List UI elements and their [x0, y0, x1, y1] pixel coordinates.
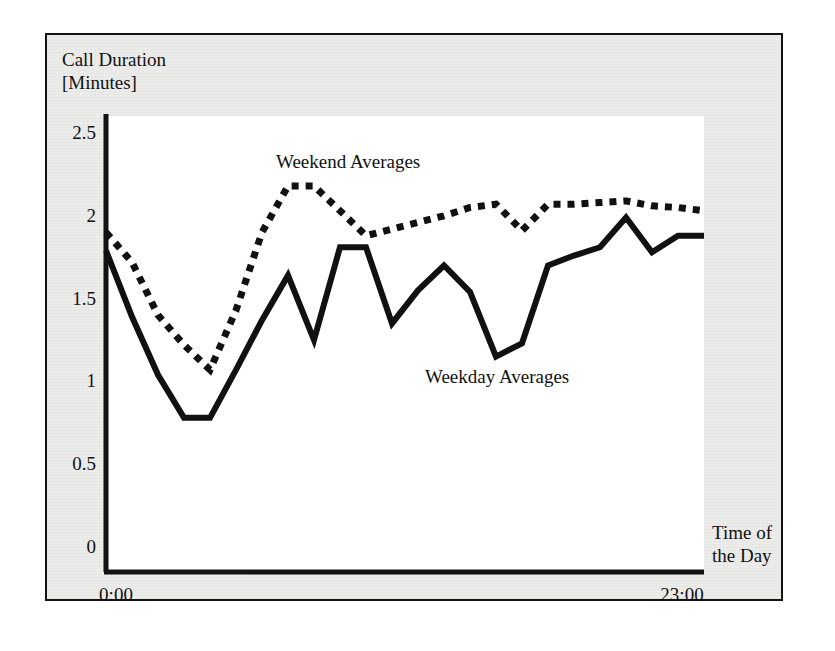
figure-container: Call Duration [Minutes] Time of the Day … [0, 0, 835, 651]
weekend-averages-annotation: Weekend Averages [276, 152, 420, 171]
data-series-group [0, 0, 835, 651]
weekend-averages-line [106, 186, 704, 370]
weekday-averages-line [106, 217, 704, 417]
weekday-averages-annotation: Weekday Averages [425, 367, 569, 386]
